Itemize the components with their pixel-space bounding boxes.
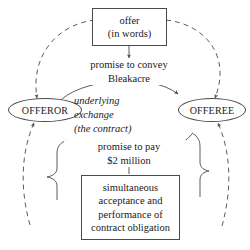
contract-formation-diagram: offer (in words) OFFEROR OFFEREE simulta… bbox=[0, 0, 250, 250]
brace-right bbox=[192, 133, 209, 197]
edge-label-underlying-exchange: underlying exchange (the contract) bbox=[74, 94, 176, 136]
edge-label-convey-line-2: Bleakacre bbox=[59, 72, 199, 86]
node-offeror-oval: OFFEROR bbox=[8, 98, 82, 122]
edge-label-pay-line-1: promise to pay bbox=[64, 140, 194, 154]
edge-acceptance-to-offeree-dashed bbox=[218, 123, 229, 226]
edge-label-convey-line-1: promise to convey bbox=[59, 58, 199, 72]
node-offeree-oval: OFFEREE bbox=[178, 98, 246, 122]
node-offer-line-2: (in words) bbox=[108, 27, 151, 40]
node-offeror-label: OFFEROR bbox=[22, 105, 68, 116]
edge-label-exchange-line-3: (the contract) bbox=[74, 122, 176, 136]
node-acceptance-line-1: simultaneous bbox=[103, 181, 158, 194]
node-acceptance-line-3: performance of bbox=[98, 208, 162, 221]
brace-left bbox=[47, 141, 65, 200]
edge-acceptance-to-offeror-dashed bbox=[23, 123, 34, 225]
edge-label-promise-to-pay: promise to pay $2 million bbox=[64, 140, 194, 167]
node-acceptance-box: simultaneous acceptance and performance … bbox=[81, 175, 180, 240]
edge-label-promise-to-convey: promise to convey Bleakacre bbox=[59, 58, 199, 85]
node-offeree-label: OFFEREE bbox=[190, 105, 235, 116]
node-offer-box: offer (in words) bbox=[92, 8, 167, 46]
node-acceptance-line-2: acceptance and bbox=[99, 194, 163, 207]
node-offer-line-1: offer bbox=[119, 14, 139, 27]
edge-label-pay-line-2: $2 million bbox=[64, 154, 194, 168]
edge-label-exchange-line-1: underlying bbox=[74, 94, 176, 108]
node-acceptance-line-4: contract obligation bbox=[91, 221, 170, 234]
edge-label-exchange-line-2: exchange bbox=[74, 108, 176, 122]
